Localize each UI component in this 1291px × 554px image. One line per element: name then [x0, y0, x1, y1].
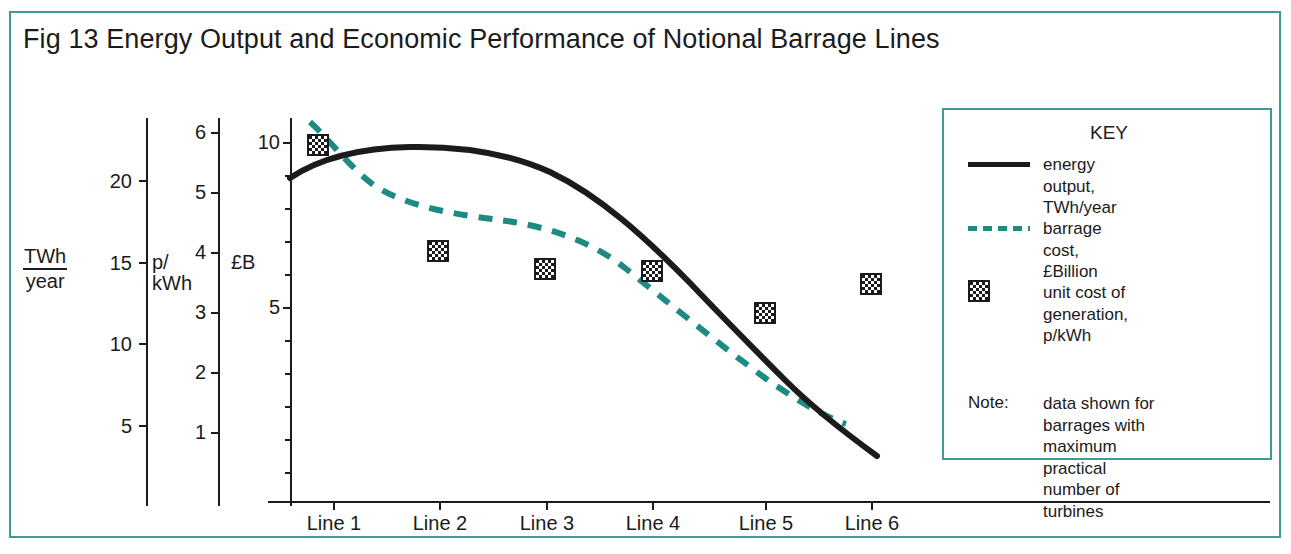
axis-tick-x [333, 501, 335, 510]
axis-tick-gbp-minor [285, 241, 292, 243]
axis-tick-twh [139, 180, 148, 182]
axis-title-pkwh: p/ kWh [152, 252, 192, 294]
solid-line-icon [968, 162, 1030, 167]
axis-title-pkwh-line1: p/ [152, 252, 192, 273]
axis-ticklabel-gbp-10: 10 [232, 131, 280, 154]
axis-ticklabel-twh-5: 5 [80, 415, 132, 438]
legend-box: KEY energy output, TWh/year barrage cost… [942, 108, 1272, 460]
axis-tick-gbp-minor [285, 406, 292, 408]
marker-unit-cost-line5 [754, 302, 776, 324]
axis-tick-pkwh [211, 372, 220, 374]
axis-tick-twh [139, 262, 148, 264]
axis-tick-pkwh [211, 192, 220, 194]
legend-note-label: Note: [968, 393, 1009, 413]
axis-tick-gbp-minor [285, 340, 292, 342]
marker-unit-cost-line4 [641, 260, 663, 282]
axis-tick-gbp-minor [285, 274, 292, 276]
axis-ticklabel-pkwh-1: 1 [176, 421, 206, 444]
axis-ticklabel-x-line5: Line 5 [711, 512, 821, 535]
axis-tick-pkwh [211, 252, 220, 254]
axis-title-gbp: £B [231, 252, 255, 273]
axis-ticklabel-x-line4: Line 4 [598, 512, 708, 535]
axis-tick-pkwh [211, 132, 220, 134]
legend-note-text: data shown for barrages with maximum pra… [1043, 393, 1155, 522]
axis-ticklabel-x-line1: Line 1 [279, 512, 389, 535]
axis-tick-pkwh [211, 432, 220, 434]
axis-tick-twh [139, 343, 148, 345]
axis-ticklabel-twh-15: 15 [80, 252, 132, 275]
axis-tick-x [439, 501, 441, 510]
axis-tick-pkwh [211, 312, 220, 314]
legend-heading: KEY [944, 122, 1274, 144]
marker-unit-cost-line6 [860, 273, 882, 295]
axis-line-twh [146, 118, 148, 506]
axis-ticklabel-pkwh-6: 6 [176, 121, 206, 144]
axis-ticklabel-twh-20: 20 [80, 170, 132, 193]
axis-title-twh-numerator: TWh [23, 246, 67, 270]
axis-title-pkwh-line2: kWh [152, 273, 192, 294]
legend-item-barrage-cost-label: barrage cost, £Billion [1043, 218, 1102, 283]
axis-ticklabel-twh-10: 10 [80, 333, 132, 356]
axis-title-twh-denominator: year [23, 270, 67, 292]
axis-ticklabel-x-line2: Line 2 [385, 512, 495, 535]
axis-ticklabel-pkwh-3: 3 [176, 301, 206, 324]
axis-tick-x [871, 501, 873, 510]
axis-tick-gbp-major [283, 142, 292, 144]
axis-tick-gbp-minor [285, 439, 292, 441]
series-energy-output-line [290, 147, 877, 456]
figure-root: Fig 13 Energy Output and Economic Perfor… [0, 0, 1291, 554]
marker-unit-cost-line2 [427, 240, 449, 262]
axis-ticklabel-x-line6: Line 6 [817, 512, 927, 535]
axis-ticklabel-x-line3: Line 3 [492, 512, 602, 535]
axis-tick-twh [139, 425, 148, 427]
axis-tick-gbp-minor [285, 472, 292, 474]
axis-ticklabel-pkwh-5: 5 [176, 181, 206, 204]
checkerboard-square-icon [968, 280, 990, 302]
axis-tick-x [546, 501, 548, 510]
legend-item-unit-cost-label: unit cost of generation, p/kWh [1043, 282, 1128, 347]
marker-unit-cost-line1 [307, 134, 329, 156]
legend-item-energy-output-label: energy output, TWh/year [1043, 154, 1117, 219]
axis-tick-gbp-major [283, 307, 292, 309]
axis-ticklabel-gbp-5: 5 [232, 296, 280, 319]
axis-tick-gbp-minor [285, 208, 292, 210]
axis-tick-x [652, 501, 654, 510]
series-barrage-cost-line [310, 122, 846, 424]
axis-title-twh: TWh year [23, 246, 67, 292]
marker-unit-cost-line3 [534, 258, 556, 280]
axis-ticklabel-pkwh-2: 2 [176, 361, 206, 384]
axis-tick-gbp-minor [285, 175, 292, 177]
axis-tick-gbp-minor [285, 373, 292, 375]
dashed-line-icon [968, 226, 1030, 231]
axis-tick-x [765, 501, 767, 510]
